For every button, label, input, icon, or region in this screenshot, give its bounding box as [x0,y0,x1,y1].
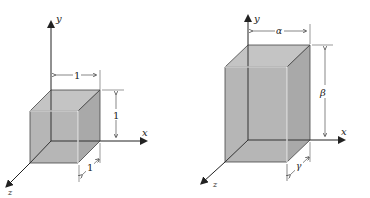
height-label: 1 [113,110,119,121]
depth-label: γ [296,161,302,171]
z-axis [203,162,225,182]
width-label: 1 [74,70,80,81]
width-label: α [276,26,282,36]
scaled-box-figure: y x z α β γ [203,13,347,189]
z-axis-label: z [212,180,218,189]
diagram-canvas: y x z 1 1 1 y x z [0,0,370,198]
z-axis-label: z [7,188,13,197]
y-axis-label: y [55,13,62,24]
box-front-face [225,67,287,162]
height-label: β [319,87,326,98]
x-axis-label: x [142,127,148,138]
unit-cube-figure: y x z 1 1 1 [7,13,148,197]
x-axis-label: x [341,126,347,137]
y-axis-label: y [253,13,260,24]
depth-label: 1 [87,162,93,173]
z-axis [8,163,30,185]
